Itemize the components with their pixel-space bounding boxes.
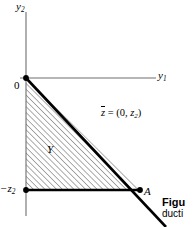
- figure-caption-title: Figu: [162, 196, 193, 208]
- origin-point-marker: [23, 75, 29, 81]
- zbar-component-subscript: 2: [134, 112, 137, 119]
- neg-z2-point-marker: [23, 187, 29, 193]
- figure-caption-body: ducti: [162, 208, 193, 219]
- zbar-symbol: z: [101, 108, 105, 119]
- zbar-annotation: z = (0, z2): [101, 108, 141, 119]
- figure-container: y2 y1 0 −z2 Y A z = (0, z2) Figu ducti: [0, 0, 193, 227]
- origin-label: 0: [14, 80, 20, 91]
- axis-label-y1: y1: [158, 70, 167, 81]
- neg-z2-label: −z2: [0, 183, 15, 194]
- production-set-plot: [0, 0, 193, 227]
- figure-caption: Figu ducti: [162, 196, 193, 220]
- point-a-label: A: [144, 186, 151, 197]
- zbar-equals: = (0,: [105, 107, 130, 118]
- production-set-label: Y: [47, 144, 53, 155]
- axis-label-y2: y2: [16, 1, 25, 12]
- point-a-marker: [137, 187, 143, 193]
- zbar-close: ): [138, 107, 142, 118]
